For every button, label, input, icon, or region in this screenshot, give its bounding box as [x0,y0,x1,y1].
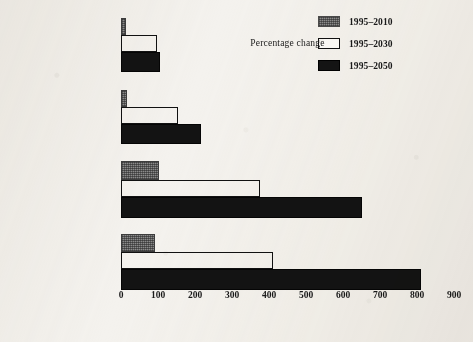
bar-group-african-americans: African Americans [121,90,454,144]
bar-1995-2010 [121,234,155,252]
x-tick-label: 0 [119,290,124,300]
bar-1995-2050 [121,197,362,218]
x-tick-label: 200 [188,290,202,300]
x-tick-label: 800 [410,290,424,300]
bar-1995-2030 [121,252,273,269]
x-tick-label: 600 [336,290,350,300]
x-tick-label: 700 [373,290,387,300]
bar-1995-2010 [121,90,127,107]
bar-1995-2010 [121,18,126,35]
bar-1995-2030 [121,180,260,197]
bar-1995-2050 [121,269,421,290]
x-tick-label: 300 [225,290,239,300]
plot-area: European Americans African Americans Asi… [121,18,454,290]
x-axis: 0100200300400500600700800900 [121,290,454,308]
x-tick-label: 900 [447,290,461,300]
x-axis-title: Percentage change [121,38,454,48]
x-tick-label: 400 [262,290,276,300]
bar-1995-2030 [121,107,178,124]
bar-group-asian-native-americans: Asian and Native Americans [121,161,454,218]
bar-chart: 1995–2010 1995–2030 1995–2050 European A… [0,0,473,342]
bar-1995-2010 [121,161,159,180]
bar-1995-2050 [121,124,201,144]
bar-group-latinos: Latinos [121,234,454,290]
x-tick-label: 100 [151,290,165,300]
bar-1995-2050 [121,52,160,72]
x-tick-label: 500 [299,290,313,300]
